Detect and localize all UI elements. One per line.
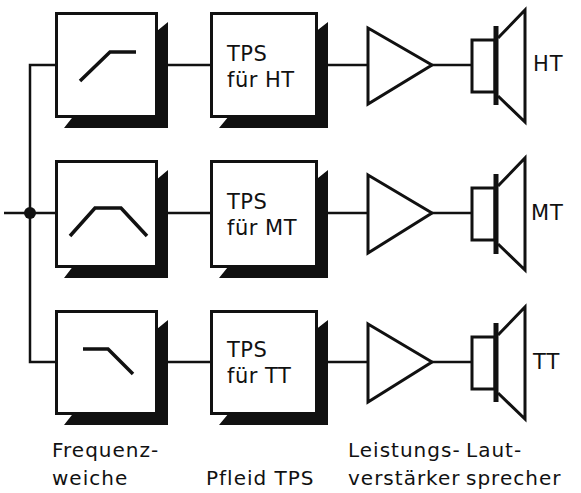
speaker-label-tt: TT bbox=[533, 350, 560, 374]
caption-amplifier: Leistungs- verstärker bbox=[348, 436, 461, 492]
caption-tps: Pfleid TPS bbox=[206, 436, 315, 492]
speaker-icon bbox=[0, 0, 581, 493]
caption-crossover: Frequenz- weiche bbox=[52, 436, 159, 492]
crossover-block-diagram: TPS für HT HT TPS für MT bbox=[0, 0, 581, 493]
caption-speaker: Laut- sprecher bbox=[466, 436, 561, 492]
